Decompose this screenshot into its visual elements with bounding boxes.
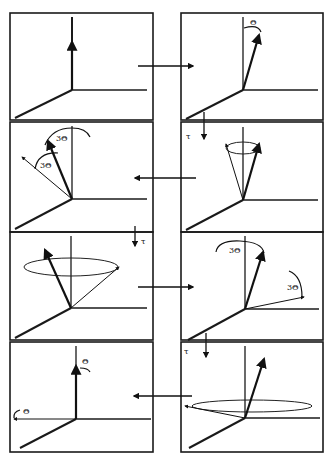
panel-7: τ bbox=[181, 342, 323, 452]
pulse-sequence-diagram: Θ τ 3Θ 3Θ τ bbox=[0, 0, 332, 462]
panel-8: Θ Θ bbox=[10, 342, 153, 452]
panel-frame bbox=[10, 122, 153, 232]
axes bbox=[15, 236, 147, 338]
three-theta-label-b: 3Θ bbox=[40, 161, 52, 170]
panel-1 bbox=[10, 13, 153, 120]
theta-label-b: Θ bbox=[23, 407, 30, 416]
panel-frame bbox=[10, 13, 153, 120]
panel-frame bbox=[10, 232, 153, 340]
panel-3: τ bbox=[181, 122, 323, 232]
dephasing-vector-b bbox=[71, 267, 119, 308]
refocusing-ellipse bbox=[192, 400, 312, 412]
precessing-vector-slow bbox=[226, 144, 243, 200]
axes bbox=[15, 17, 147, 118]
panel-frame bbox=[181, 122, 323, 232]
vector-3theta-a bbox=[245, 252, 263, 309]
axes bbox=[188, 236, 319, 340]
tau-label: τ bbox=[186, 132, 191, 141]
tau-label: τ bbox=[184, 347, 189, 356]
vector-3theta-b bbox=[245, 297, 304, 309]
panel-4: 3Θ 3Θ bbox=[10, 122, 153, 232]
refocusing-vector-a bbox=[245, 359, 264, 418]
panel-6: 3Θ 3Θ bbox=[181, 232, 323, 340]
axes bbox=[186, 17, 318, 119]
panel-frame bbox=[181, 13, 323, 120]
axes bbox=[15, 126, 147, 229]
rotation-arc-a bbox=[80, 368, 90, 372]
tau-label: τ bbox=[141, 237, 146, 246]
vector-3theta-a bbox=[48, 141, 72, 199]
theta-label: Θ bbox=[250, 18, 257, 27]
three-theta-label-a: 3Θ bbox=[56, 134, 68, 143]
tipped-vector bbox=[243, 35, 259, 90]
rotation-arc-b bbox=[14, 410, 20, 418]
precessing-vector-fast bbox=[243, 144, 259, 200]
three-theta-label-a: 3Θ bbox=[229, 246, 241, 255]
theta-label-a: Θ bbox=[82, 357, 89, 366]
axes bbox=[189, 346, 320, 448]
three-theta-label-b: 3Θ bbox=[287, 283, 299, 292]
rotation-arc bbox=[244, 27, 261, 32]
panel-2: Θ bbox=[181, 13, 323, 120]
panel-5: τ bbox=[10, 232, 153, 340]
